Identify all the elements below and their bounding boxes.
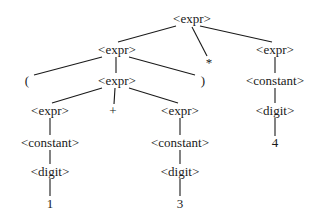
node-root-expr: <expr> [173,11,211,26]
node-digit-left: <digit> [31,164,70,179]
tree-edge [192,27,207,56]
tree-edge [200,26,272,42]
node-open-paren: ( [25,73,29,88]
node-constant-left: <constant> [21,135,79,150]
node-digit-right: <digit> [256,103,295,118]
node-leaf-3: 3 [177,196,184,211]
node-close-paren: ) [201,73,205,88]
tree-edge [129,57,195,75]
tree-edge [52,88,102,103]
node-constant-right: <constant> [246,73,304,88]
tree-edges [34,26,275,196]
node-plus-operator: + [109,103,116,118]
node-expr-left: <expr> [98,42,136,57]
node-expr-addend-left: <expr> [31,103,69,118]
tree-edge [34,57,102,75]
node-constant-middle: <constant> [151,135,209,150]
tree-edge [129,88,178,103]
node-digit-middle: <digit> [161,164,200,179]
node-expr-addend-right: <expr> [161,103,199,118]
node-expr-inner: <expr> [98,73,136,88]
node-leaf-1: 1 [47,196,54,211]
node-expr-right: <expr> [256,42,294,57]
parse-tree-diagram: <expr> <expr> * <expr> ( <expr> ) <const… [0,0,330,219]
tree-nodes: <expr> <expr> * <expr> ( <expr> ) <const… [21,11,304,211]
node-leaf-4: 4 [272,135,279,150]
node-multiply-operator: * [206,55,213,70]
tree-edge [118,26,176,42]
